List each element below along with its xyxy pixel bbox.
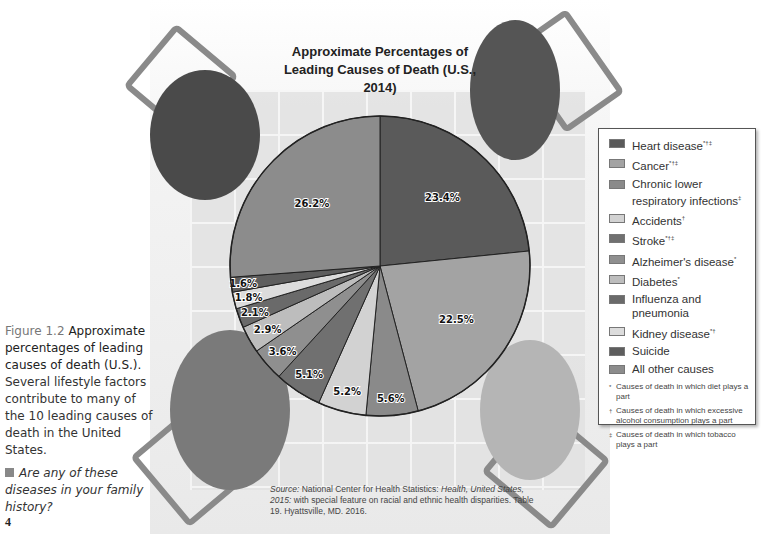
legend: Heart disease*†‡Cancer*†‡Chronic lower r…: [598, 128, 756, 425]
legend-swatch: [609, 234, 625, 243]
footnote-text: Causes of death in which diet plays a pa…: [616, 382, 749, 402]
caption-body: Several lifestyle factors contribute to …: [5, 375, 152, 457]
footnote-mark: *: [609, 382, 616, 402]
legend-item: Alzheimer's disease*: [609, 252, 749, 269]
slice-value-label: 22.5%: [439, 314, 474, 325]
legend-label: Alzheimer's disease*: [632, 252, 736, 269]
legend-swatch: [609, 365, 625, 374]
legend-footnote-marks: *†‡: [669, 160, 678, 166]
footnote-text: Causes of death in which tobacco plays a…: [616, 430, 749, 450]
footnote-mark: †: [609, 406, 616, 426]
legend-label: All other causes: [632, 362, 714, 376]
caption-question-block: Are any of these diseases in your family…: [5, 465, 155, 516]
legend-item: Influenza and pneumonia: [609, 292, 749, 320]
square-bullet-icon: [5, 468, 14, 477]
legend-footnotes: *Causes of death in which diet plays a p…: [609, 382, 749, 450]
legend-item: Cancer*†‡: [609, 156, 749, 173]
legend-swatch: [609, 295, 625, 304]
legend-item: Diabetes*: [609, 272, 749, 289]
legend-swatch: [609, 139, 625, 148]
slice-value-label: 1.8%: [235, 292, 263, 303]
legend-label: Accidents†: [632, 211, 685, 228]
slice-value-label: 23.4%: [425, 192, 460, 203]
legend-footnote-marks: ‡: [738, 195, 741, 201]
pie-slice-all-other-causes: [230, 116, 380, 277]
slice-value-label: 3.6%: [269, 346, 297, 357]
slice-value-label: 5.1%: [295, 369, 323, 380]
legend-swatch: [609, 255, 625, 264]
legend-footnote-marks: *†‡: [703, 140, 712, 146]
legend-swatch: [609, 327, 625, 336]
legend-item: Heart disease*†‡: [609, 136, 749, 153]
slice-value-label: 5.6%: [377, 393, 405, 404]
legend-label: Chronic lower respiratory infections‡: [632, 177, 749, 208]
slice-value-label: 5.2%: [333, 386, 361, 397]
legend-label: Stroke*†‡: [632, 231, 674, 248]
legend-item: All other causes: [609, 362, 749, 376]
slice-value-label: 1.6%: [229, 278, 257, 289]
legend-swatch: [609, 214, 625, 223]
pie-slice-heart-disease: [380, 116, 529, 266]
legend-swatch: [609, 159, 625, 168]
legend-label: Cancer*†‡: [632, 156, 678, 173]
legend-item: Chronic lower respiratory infections‡: [609, 177, 749, 208]
legend-footnote-marks: †: [682, 215, 685, 221]
legend-label: Suicide: [632, 344, 670, 358]
legend-footnote: *Causes of death in which diet plays a p…: [609, 382, 749, 402]
legend-item: Suicide: [609, 344, 749, 358]
source-text-2: with special feature on racial and ethni…: [270, 495, 534, 516]
source-citation: Source: National Center for Health Stati…: [270, 484, 540, 517]
legend-swatch: [609, 347, 625, 356]
legend-label: Influenza and pneumonia: [632, 292, 749, 320]
legend-footnote: ‡Causes of death in which tobacco plays …: [609, 430, 749, 450]
footnote-mark: ‡: [609, 430, 616, 450]
source-prefix: Source:: [270, 484, 299, 494]
legend-footnote-marks: *†: [710, 328, 716, 334]
footnote-text: Causes of death in which excessive alcoh…: [616, 406, 749, 426]
figure-label: Figure 1.2: [5, 324, 65, 338]
slice-value-label: 2.1%: [241, 307, 269, 318]
slice-value-label: 2.9%: [254, 324, 282, 335]
legend-footnote-marks: *: [677, 276, 679, 282]
page-number: 4: [5, 515, 11, 530]
legend-item: Accidents†: [609, 211, 749, 228]
slice-value-label: 26.2%: [294, 198, 329, 209]
legend-footnote-marks: *†‡: [665, 235, 674, 241]
legend-label: Heart disease*†‡: [632, 136, 712, 153]
legend-label: Kidney disease*†: [632, 324, 716, 341]
legend-item: Kidney disease*†: [609, 324, 749, 341]
legend-swatch: [609, 180, 625, 189]
figure-caption: Figure 1.2 Approximate percentages of le…: [5, 323, 155, 516]
legend-swatch: [609, 275, 625, 284]
legend-item: Stroke*†‡: [609, 231, 749, 248]
legend-label: Diabetes*: [632, 272, 680, 289]
source-text-1: National Center for Health Statistics:: [302, 484, 439, 494]
caption-question: Are any of these diseases in your family…: [5, 466, 143, 514]
legend-footnote: †Causes of death in which excessive alco…: [609, 406, 749, 426]
legend-footnote-marks: *: [734, 256, 736, 262]
